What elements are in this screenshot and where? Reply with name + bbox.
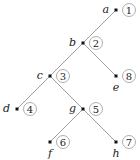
- node-label: a: [102, 3, 109, 16]
- node-number: 2: [93, 38, 99, 49]
- node-label: g: [69, 102, 76, 115]
- node-label: b: [69, 36, 76, 49]
- tree-canvas: 1a2b3c8e4d5g6f7h: [0, 0, 140, 160]
- node-dot: [82, 42, 85, 45]
- node-label: c: [37, 69, 43, 82]
- node-label: d: [3, 102, 10, 115]
- node-number: 5: [93, 104, 99, 115]
- node-number: 1: [126, 5, 132, 16]
- node-dot: [82, 108, 85, 111]
- node-number: 3: [60, 71, 66, 82]
- node-dot: [16, 108, 19, 111]
- node-number: 4: [27, 104, 33, 115]
- node-dot: [49, 75, 52, 78]
- node-dot: [115, 141, 118, 144]
- node-number: 6: [60, 137, 66, 148]
- tree-diagram: 1a2b3c8e4d5g6f7h: [0, 0, 140, 160]
- node-label: h: [112, 147, 119, 160]
- node-number: 8: [126, 71, 132, 82]
- node-label: e: [113, 81, 120, 94]
- node-dot: [115, 75, 118, 78]
- node-dot: [49, 141, 52, 144]
- node-label: f: [47, 147, 54, 160]
- node-number: 7: [126, 137, 132, 148]
- node-dot: [115, 9, 118, 12]
